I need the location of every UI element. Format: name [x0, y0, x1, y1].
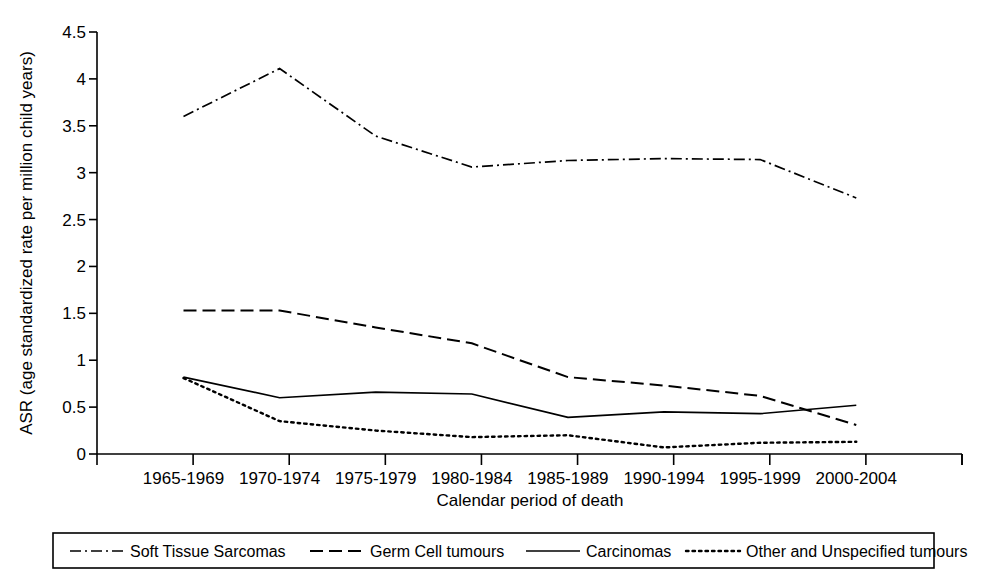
y-tick-label: 4	[77, 70, 86, 89]
x-tick-label: 1975-1979	[335, 469, 416, 488]
legend-label-3: Other and Unspecified tumours	[746, 543, 967, 560]
x-tick-label: 1980-1984	[431, 469, 512, 488]
y-tick-label: 4.5	[62, 23, 86, 42]
x-tick-label: 1965-1969	[143, 469, 224, 488]
y-tick-label: 2	[77, 257, 86, 276]
y-tick-label: 0.5	[62, 398, 86, 417]
series-line-1	[184, 311, 857, 425]
x-axis-title: Calendar period of death	[436, 491, 623, 510]
y-tick-label: 1.5	[62, 304, 86, 323]
y-tick-label: 3	[77, 164, 86, 183]
x-tick-label: 1995-1999	[720, 469, 801, 488]
legend-label-2: Carcinomas	[586, 543, 671, 560]
y-tick-label: 0	[77, 445, 86, 464]
legend-label-0: Soft Tissue Sarcomas	[130, 543, 286, 560]
series-lines	[184, 69, 857, 448]
y-tick-label: 1	[77, 351, 86, 370]
line-chart: ASR (age standardized rate per million c…	[0, 0, 985, 585]
legend-entries: Soft Tissue SarcomasGerm Cell tumoursCar…	[70, 543, 967, 560]
x-tick-label: 1985-1989	[527, 469, 608, 488]
x-axis-tick-marks	[97, 454, 962, 465]
y-axis-tick-marks	[89, 32, 97, 454]
legend-label-1: Germ Cell tumours	[370, 543, 504, 560]
x-tick-label: 1970-1974	[239, 469, 320, 488]
x-tick-label: 2000-2004	[816, 469, 897, 488]
chart-container: ASR (age standardized rate per million c…	[0, 0, 985, 585]
x-tick-label: 1990-1994	[623, 469, 704, 488]
y-tick-label: 3.5	[62, 117, 86, 136]
y-tick-label: 2.5	[62, 211, 86, 230]
series-line-2	[184, 377, 857, 417]
y-axis-title: ASR (age standardized rate per million c…	[17, 51, 36, 435]
series-line-0	[184, 69, 857, 198]
x-axis-tick-labels: 1965-19691970-19741975-19791980-19841985…	[143, 469, 897, 488]
y-axis-tick-labels: 00.511.522.533.544.5	[62, 23, 86, 464]
